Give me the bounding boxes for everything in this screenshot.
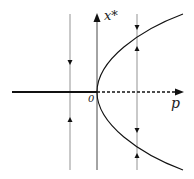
bifurcation-diagram — [0, 0, 194, 179]
arrow-down-icon — [68, 60, 73, 65]
vertical-axis-label: x* — [104, 9, 118, 22]
horizontal-axis-label: p — [171, 96, 180, 110]
arrow-down-icon — [135, 25, 140, 30]
stable-upper-parabola — [97, 14, 183, 92]
arrow-up-icon — [135, 46, 140, 51]
vertical-axis-arrowhead — [94, 13, 101, 22]
arrow-up-icon — [68, 117, 73, 122]
arrow-down-icon — [135, 128, 140, 133]
arrow-up-icon — [135, 153, 140, 158]
origin-label: 0 — [88, 94, 94, 104]
